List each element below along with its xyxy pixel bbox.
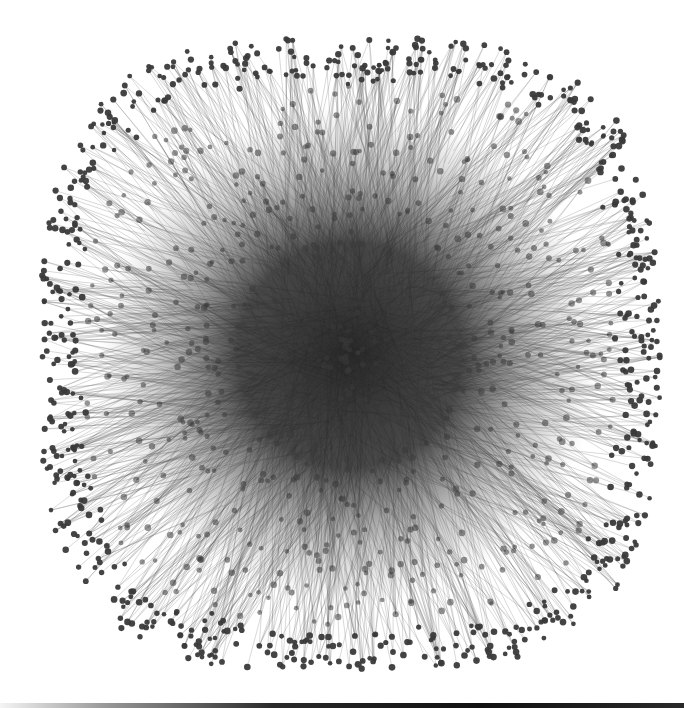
bottom-border-bar: [0, 703, 684, 708]
network-graph: [0, 0, 684, 702]
graph-dense-core: [100, 105, 600, 605]
